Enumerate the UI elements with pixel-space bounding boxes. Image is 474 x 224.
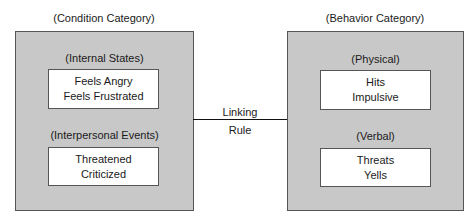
behavior-item: Impulsive [321,90,430,105]
condition-category-box: (Internal States) Feels Angry Feels Frus… [15,31,194,211]
condition-category-title: (Condition Category) [14,12,194,24]
physical-label: (Physical) [288,53,463,65]
physical-box: Hits Impulsive [320,70,431,110]
verbal-box: Threats Yells [320,148,431,187]
behavior-category-box: (Physical) Hits Impulsive (Verbal) Threa… [287,31,464,211]
linking-rule-connector [193,119,287,120]
interpersonal-events-label: (Interpersonal Events) [16,129,193,141]
condition-item: Criticized [49,167,158,182]
behavior-category-title: (Behavior Category) [285,12,465,24]
condition-item: Threatened [49,152,158,167]
condition-item: Feels Angry [49,74,158,89]
linking-rule-label-line2: Rule [200,124,280,136]
verbal-label: (Verbal) [288,130,463,142]
behavior-item: Yells [321,168,430,183]
linking-rule-label-line1: Linking [200,106,280,118]
condition-item: Feels Frustrated [49,89,158,104]
behavior-item: Threats [321,153,430,168]
behavior-item: Hits [321,75,430,90]
interpersonal-events-box: Threatened Criticized [48,147,159,186]
internal-states-box: Feels Angry Feels Frustrated [48,69,159,109]
internal-states-label: (Internal States) [16,52,193,64]
